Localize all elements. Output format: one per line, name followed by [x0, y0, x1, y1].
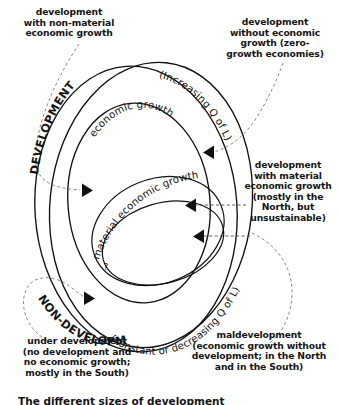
label-development-tail-text: (Increasing Q of L) — [158, 69, 234, 142]
annotation-under-development: under development (no development and no… — [2, 336, 152, 378]
label-economic-growth-text: economic growth — [87, 99, 176, 139]
label-material-economic-growth: material economic growth — [90, 169, 199, 261]
question-mark-label: ? — [104, 262, 109, 272]
material-growth-connector-lower — [193, 230, 250, 244]
label-economic-growth: economic growth — [87, 99, 176, 139]
annotation-maldevelopment: maldevelopment (economic growth without … — [180, 330, 338, 372]
arrowhead-left — [203, 146, 214, 160]
arrowhead-left — [185, 199, 196, 213]
figure-caption: The different sizes of development — [18, 395, 318, 405]
label-development-tail: (Increasing Q of L) — [158, 69, 234, 142]
inner-tilted-oval — [92, 187, 233, 298]
annotation-development-without-economic-growth: development without economic growth (zer… — [214, 17, 336, 59]
arrowhead-left — [193, 230, 204, 244]
label-nondevelopment: NON-DEVELOPMENT — [0, 0, 128, 348]
annotation-development-with-material-growth: development with material economic growt… — [238, 160, 338, 224]
arrowhead-right — [82, 184, 93, 198]
arrowhead-right — [84, 292, 95, 306]
annotation-development-with-non-material-growth: development with non-material economic g… — [6, 7, 132, 39]
development-venn-diagram: DEVELOPMENT (Increasing Q of L) economic… — [0, 0, 339, 405]
label-nondevelopment-text: NON-DEVELOPMENT — [0, 0, 128, 348]
label-material-economic-growth-text: material economic growth — [90, 169, 199, 261]
